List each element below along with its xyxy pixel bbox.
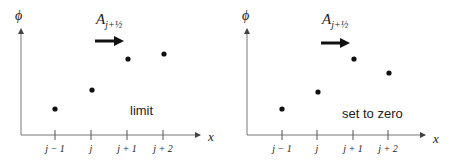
- left-panel: ϕ x j − 1 j j + 1 j + 2 Aj+½ limit: [15, 8, 214, 154]
- flux-arrow-icon: [95, 36, 124, 46]
- x-axis-label: x: [432, 131, 439, 146]
- tick-label: j: [88, 143, 93, 154]
- flux-label: Aj+½: [321, 11, 349, 30]
- data-point: [351, 56, 356, 61]
- data-point: [125, 56, 130, 61]
- data-point: [89, 87, 94, 92]
- tick-label: j + 1: [115, 143, 137, 154]
- tick-label: j + 1: [341, 143, 363, 154]
- diagram-canvas: ϕ x j − 1 j j + 1 j + 2 Aj+½ limit ϕ x: [0, 0, 449, 166]
- x-axis-label: x: [207, 129, 214, 144]
- tick-label: j + 2: [376, 143, 398, 154]
- data-point: [52, 106, 57, 111]
- data-point: [386, 70, 391, 75]
- data-point: [315, 89, 320, 94]
- data-point: [161, 51, 166, 56]
- y-axis-label: ϕ: [242, 8, 249, 23]
- flux-arrow-icon: [321, 38, 350, 48]
- right-panel: ϕ x j − 1 j j + 1 j + 2 Aj+½ set to zero: [242, 8, 439, 154]
- tick-label: j − 1: [43, 143, 65, 154]
- tick-label: j + 2: [151, 143, 173, 154]
- annotation-set-to-zero: set to zero: [342, 106, 403, 121]
- tick-label: j: [314, 143, 319, 154]
- annotation-limit: limit: [130, 103, 153, 118]
- flux-label: Aj+½: [95, 11, 123, 30]
- data-point: [279, 106, 284, 111]
- tick-label: j − 1: [270, 143, 292, 154]
- y-axis-label: ϕ: [15, 8, 22, 23]
